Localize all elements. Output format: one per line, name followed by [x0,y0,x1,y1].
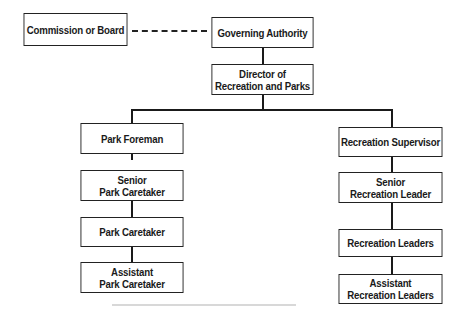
park-caretaker-box: Park Caretaker [80,217,183,247]
assistant-park-caretaker-box: Assistant Park Caretaker [80,262,183,293]
horizontal-branch-bar [131,109,393,111]
connector-governing-director [262,48,264,64]
senior-recreation-leader-label: Senior Recreation Leader [350,176,431,200]
park-caretaker-label: Park Caretaker [99,226,165,238]
director-box: Director of Recreation and Parks [211,64,313,95]
recreation-leaders-box: Recreation Leaders [339,229,443,257]
connector-right-branch [391,109,393,127]
connector-right-2-3 [391,203,393,229]
director-label: Director of Recreation and Parks [215,68,310,92]
governing-authority-box: Governing Authority [211,17,313,48]
senior-recreation-leader-box: Senior Recreation Leader [339,172,443,203]
connector-left-1-2 [131,154,133,160]
senior-park-caretaker-box: Senior Park Caretaker [80,170,183,201]
connector-right-1-2 [391,157,393,172]
assistant-park-caretaker-label: Assistant Park Caretaker [99,266,165,290]
governing-authority-label: Governing Authority [217,27,307,39]
connector-right-3-4 [391,257,393,274]
recreation-supervisor-box: Recreation Supervisor [339,127,443,157]
faded-caption [112,304,296,306]
connector-left-2-3 [131,201,133,217]
commission-or-board-label: Commission or Board [27,24,124,36]
park-foreman-label: Park Foreman [101,133,163,145]
connector-left-branch [131,109,133,123]
assistant-recreation-leaders-box: Assistant Recreation Leaders [339,274,443,304]
recreation-supervisor-label: Recreation Supervisor [341,136,440,148]
dashed-connector-commission-governing [132,30,207,32]
commission-or-board-box: Commission or Board [24,13,128,46]
senior-park-caretaker-label: Senior Park Caretaker [99,174,165,198]
park-foreman-box: Park Foreman [80,123,183,154]
connector-left-3-4 [131,247,133,262]
assistant-recreation-leaders-label: Assistant Recreation Leaders [347,277,433,301]
recreation-leaders-label: Recreation Leaders [347,237,433,249]
connector-director-down [262,95,264,110]
